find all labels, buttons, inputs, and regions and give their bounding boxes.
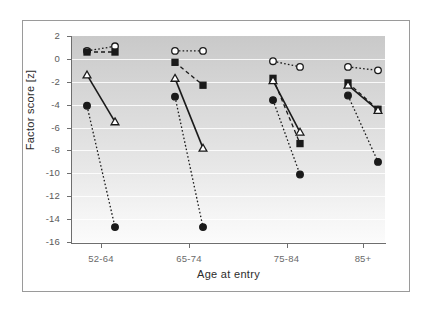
- plot-wrapper: 20-2-4-6-8-10-12-14-16 52-6465-7475-8485…: [0, 0, 430, 315]
- x-tick-label: 75-84: [262, 253, 312, 264]
- y-tick-label: -16: [34, 236, 60, 247]
- gridline: [72, 59, 385, 60]
- y-tick-mark: [67, 105, 72, 106]
- y-tick-mark: [67, 242, 72, 243]
- gridline: [72, 150, 385, 151]
- y-tick-mark: [67, 196, 72, 197]
- y-tick-label: -8: [34, 144, 60, 155]
- y-tick-mark: [67, 150, 72, 151]
- gridline: [72, 105, 385, 106]
- x-axis-label: Age at entry: [72, 268, 385, 280]
- y-tick-mark: [67, 36, 72, 37]
- x-tick-label: 52-64: [76, 253, 126, 264]
- x-axis-line: [71, 243, 386, 244]
- gridline: [72, 219, 385, 220]
- gridline: [72, 128, 385, 129]
- y-tick-label: -4: [34, 99, 60, 110]
- x-tick-mark: [363, 243, 364, 248]
- y-tick-label: 2: [34, 30, 60, 41]
- gridline: [72, 82, 385, 83]
- y-axis-line: [71, 36, 72, 243]
- x-tick-mark: [101, 243, 102, 248]
- plot-area: [72, 36, 385, 242]
- gridline: [72, 196, 385, 197]
- y-tick-mark: [67, 128, 72, 129]
- y-tick-label: -14: [34, 213, 60, 224]
- y-tick-mark: [67, 82, 72, 83]
- x-tick-mark: [287, 243, 288, 248]
- x-tick-mark: [189, 243, 190, 248]
- y-tick-label: -10: [34, 167, 60, 178]
- y-tick-label: -12: [34, 190, 60, 201]
- chart-page: 20-2-4-6-8-10-12-14-16 52-6465-7475-8485…: [0, 0, 430, 315]
- gridline: [72, 173, 385, 174]
- y-tick-mark: [67, 59, 72, 60]
- x-tick-label: 85+: [338, 253, 388, 264]
- y-tick-label: -6: [34, 122, 60, 133]
- x-tick-label: 65-74: [164, 253, 214, 264]
- y-tick-mark: [67, 173, 72, 174]
- y-tick-mark: [67, 219, 72, 220]
- y-axis-label: Factor score [z]: [24, 50, 36, 170]
- y-tick-label: -2: [34, 76, 60, 87]
- y-tick-label: 0: [34, 53, 60, 64]
